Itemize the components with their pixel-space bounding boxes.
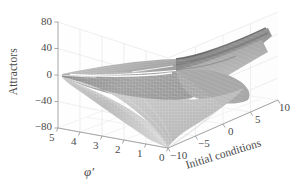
xtick-label-5: 5: [255, 114, 261, 125]
ytick-label-2: 2: [115, 144, 121, 155]
ytick-label-1: 1: [137, 148, 143, 159]
figure-canvas: 80 40 0 −40 −80 5 4 3 2 1 0 −10 −5 0 5 1…: [0, 0, 298, 190]
z-axis-label: Attractors: [8, 36, 20, 108]
ztick-label-40: 40: [28, 42, 52, 53]
ytick-label-3: 3: [93, 140, 99, 151]
ztick-label-80: 80: [28, 16, 52, 27]
ytick-label-0: 0: [159, 152, 165, 163]
ztick-label-neg40: −40: [24, 95, 52, 106]
xtick-label-0: 0: [228, 126, 234, 137]
xtick-label-neg5: −5: [198, 138, 210, 149]
ytick-label-4: 4: [71, 136, 77, 147]
ytick-label-5: 5: [49, 132, 55, 143]
xtick-label-10: 10: [279, 102, 290, 113]
ztick-label-neg80: −80: [24, 121, 52, 132]
ztick-label-0: 0: [28, 69, 52, 80]
y-axis-label: φ′: [84, 165, 94, 178]
